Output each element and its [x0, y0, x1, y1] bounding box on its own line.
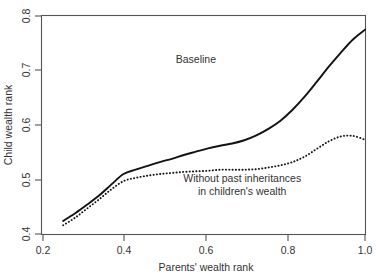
annotation-baseline: Baseline: [176, 53, 216, 65]
y-tick-label: 0.4: [20, 227, 32, 242]
y-tick-label: 0.8: [20, 9, 32, 24]
annotation-without-inheritances-line2: in children's wealth: [198, 185, 287, 197]
y-tick-label: 0.7: [20, 63, 32, 78]
x-tick-label: 1.0: [358, 244, 373, 256]
chart-figure: 0.2 0.4 0.6 0.8 1.0 0.4 0.5 0.6 0.7 0.8 …: [0, 0, 383, 279]
x-tick-label: 0.8: [281, 244, 296, 256]
annotation-without-inheritances-line1: Without past inheritances: [183, 172, 301, 184]
y-axis-title: Child wealth rank: [2, 84, 14, 165]
x-axis-title: Parents' wealth rank: [159, 261, 255, 273]
x-tick-label: 0.6: [199, 244, 214, 256]
y-tick-label: 0.6: [20, 118, 32, 133]
x-tick-label: 0.2: [36, 244, 51, 256]
x-tick-label: 0.4: [117, 244, 132, 256]
figure-background: [0, 0, 383, 279]
y-tick-label: 0.5: [20, 173, 32, 188]
